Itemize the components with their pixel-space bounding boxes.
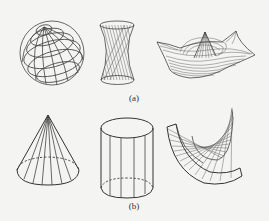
caption-a: (a)	[119, 93, 149, 103]
wavy-surface-shape	[157, 31, 255, 78]
cone-shape	[17, 115, 79, 185]
hyperboloid-shape	[84, 21, 142, 85]
developable-surface-shape	[167, 108, 242, 184]
sphere-shape	[20, 21, 85, 86]
figure: (a) (b)	[0, 0, 269, 221]
figure-canvas	[0, 0, 269, 221]
cylinder-shape	[101, 118, 153, 198]
caption-b: (b)	[119, 201, 149, 211]
